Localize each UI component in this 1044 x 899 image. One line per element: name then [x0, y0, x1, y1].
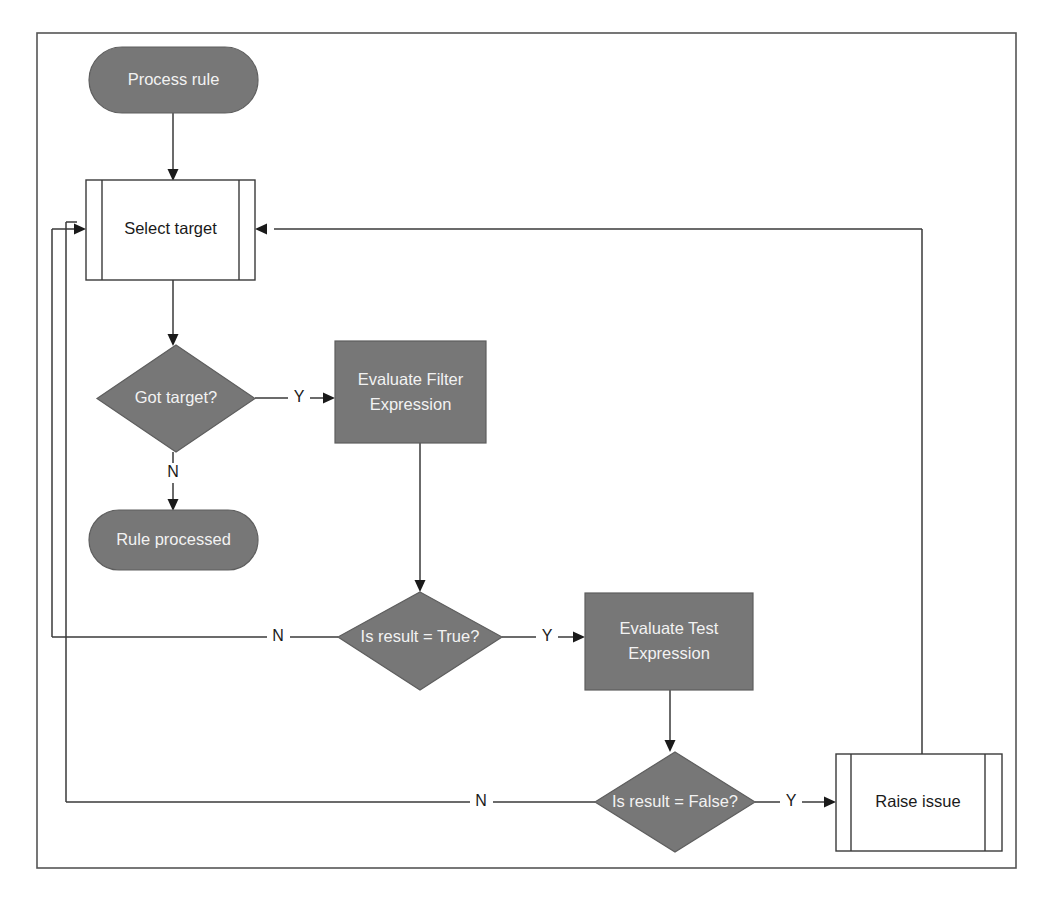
edge-label-got-target-no: N	[167, 463, 179, 480]
arrow-head-icon	[323, 393, 335, 404]
edge-label-is-result-true-yes: Y	[542, 627, 553, 644]
arrow-head-icon	[255, 224, 267, 235]
arrow-head-icon	[573, 632, 585, 643]
node-is-result-false[interactable]: Is result = False?	[595, 752, 755, 852]
node-label-process-rule: Process rule	[128, 70, 220, 88]
edge-label-got-target-yes: Y	[294, 388, 305, 405]
node-is-result-true[interactable]: Is result = True?	[338, 592, 502, 690]
flowchart-svg: Y N Y N	[0, 0, 1044, 899]
arrow-head-icon	[168, 169, 179, 181]
node-label-evaluate-filter-line1: Evaluate Filter	[358, 370, 464, 388]
arrow-head-icon	[415, 580, 426, 592]
node-label-got-target: Got target?	[135, 388, 218, 406]
arrow-head-icon	[824, 797, 836, 808]
node-process-rule[interactable]: Process rule	[89, 47, 258, 113]
edge-got-target-yes-to-evaluate-filter: Y	[255, 388, 335, 405]
node-evaluate-filter-expression[interactable]: Evaluate Filter Expression	[335, 341, 486, 443]
node-label-evaluate-test-line2: Expression	[628, 644, 710, 662]
process-shape	[335, 341, 486, 443]
node-raise-issue[interactable]: Raise issue	[836, 754, 1002, 851]
edge-evaluate-test-to-is-result-false	[665, 690, 676, 752]
node-evaluate-test-expression[interactable]: Evaluate Test Expression	[585, 593, 753, 690]
edge-label-is-result-true-no: N	[272, 627, 284, 644]
node-got-target[interactable]: Got target?	[97, 345, 255, 452]
edge-select-target-to-got-target	[168, 280, 179, 346]
flowchart-canvas: Y N Y N	[0, 0, 1044, 899]
process-shape	[585, 593, 753, 690]
node-label-evaluate-test-line1: Evaluate Test	[620, 619, 719, 637]
edge-is-result-false-yes-to-raise-issue: Y	[755, 792, 836, 809]
node-label-evaluate-filter-line2: Expression	[370, 395, 452, 413]
edge-label-is-result-false-yes: Y	[786, 792, 797, 809]
node-rule-processed[interactable]: Rule processed	[89, 510, 258, 570]
node-label-is-result-false: Is result = False?	[612, 792, 738, 810]
edge-label-is-result-false-no: N	[475, 792, 487, 809]
node-label-rule-processed: Rule processed	[116, 530, 231, 548]
diagram-frame	[37, 33, 1016, 868]
arrow-head-icon	[168, 334, 179, 346]
edge-start-to-select-target	[168, 113, 179, 181]
node-label-is-result-true: Is result = True?	[361, 627, 480, 645]
node-select-target[interactable]: Select target	[86, 180, 255, 280]
arrow-head-icon	[168, 499, 179, 511]
node-label-raise-issue: Raise issue	[875, 792, 960, 810]
edge-is-result-true-yes-to-evaluate-test: Y	[502, 627, 585, 644]
node-label-select-target: Select target	[124, 219, 217, 237]
arrow-head-icon	[74, 224, 86, 235]
edge-got-target-no-to-rule-processed: N	[167, 452, 179, 511]
arrow-head-icon	[665, 740, 676, 752]
edge-evaluate-filter-to-is-result-true	[415, 443, 426, 592]
